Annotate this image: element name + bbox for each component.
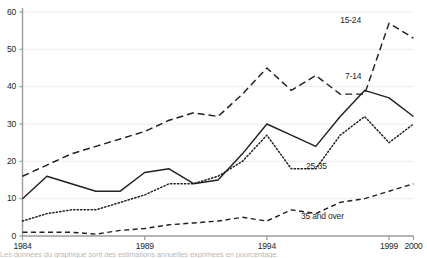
- series-line-15-24: [23, 23, 414, 176]
- y-tick-label: 10: [0, 193, 16, 203]
- y-tick-label: 0: [0, 231, 16, 241]
- y-tick-label: 40: [0, 81, 16, 91]
- y-tick-label: 30: [0, 119, 16, 129]
- y-tick-label: 50: [0, 44, 16, 54]
- series-label-35-and-over: 35 and over: [301, 211, 344, 221]
- series-label-7-14: 7-14: [345, 71, 361, 81]
- series-line-7-14: [23, 90, 414, 198]
- series-label-25-35: 25-35: [306, 161, 327, 171]
- series-line-35-and-over: [23, 184, 414, 234]
- y-tick-label: 60: [0, 7, 16, 17]
- series-label-15-24: 15-24: [340, 15, 361, 25]
- y-tick-label: 20: [0, 156, 16, 166]
- figure-caption: Les donnees du graphique sont des estima…: [0, 250, 416, 258]
- series-line-25-35: [23, 117, 414, 222]
